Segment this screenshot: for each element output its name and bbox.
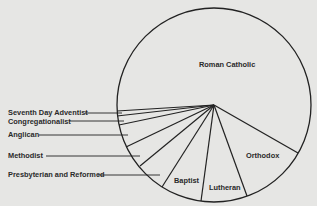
- label-lutheran: Lutheran: [209, 183, 241, 192]
- label-presbyterian-reformed: Presbyterian and Reformed: [8, 170, 105, 179]
- label-baptist: Baptist: [174, 176, 200, 185]
- label-seventh-day-adventist: Seventh Day Adventist: [8, 108, 88, 117]
- label-orthodox: Orthodox: [246, 151, 280, 160]
- label-roman-catholic: Roman Catholic: [199, 60, 255, 69]
- pie-chart: Roman Catholic Orthodox Lutheran Baptist…: [0, 0, 317, 206]
- label-congregationalist: Congregationalist: [8, 117, 71, 126]
- label-methodist: Methodist: [8, 151, 43, 160]
- label-anglican: Anglican: [8, 130, 40, 139]
